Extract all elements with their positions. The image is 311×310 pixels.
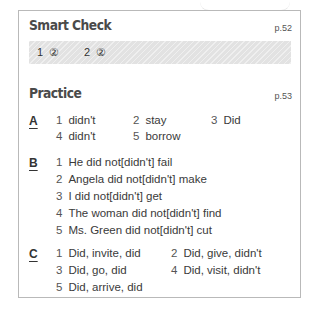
section-b-item-1: 1He did not[didn't] fail [56,156,172,168]
smart-check-page-ref: p.52 [274,23,292,33]
section-a-label: A [29,114,38,128]
smart-check-answers: 1② 2② [29,41,291,64]
smart-check-title: Smart Check [29,17,111,33]
section-a-item-3: 3Did [211,114,241,126]
section-a-item-4: 4didn't [56,130,96,142]
section-b-item-2: 2Angela did not[didn't] make [56,173,207,185]
smart-check-answer-1: 1② [37,46,59,59]
section-c-item-1: 1Did, invite, did [56,247,141,259]
section-c-item-2: 2Did, give, didn't [171,247,262,259]
section-b-item-4: 4The woman did not[didn't] find [56,207,221,219]
section-c-item-3: 3Did, go, did [56,264,127,276]
practice-page-ref: p.53 [274,91,292,101]
section-b-item-5: 5Ms. Green did not[didn't] cut [56,224,212,236]
section-c-label: C [29,247,38,261]
section-c-item-4: 4Did, visit, didn't [171,264,260,276]
section-c-item-5: 5Did, arrive, did [56,281,143,293]
smart-check-answer-2: 2② [84,46,106,59]
section-b-item-3: 3I did not[didn't] get [56,190,162,202]
answer-key-box: Smart Check p.52 1② 2② Practice p.53 A 1… [18,10,301,298]
section-b-label: B [29,156,38,170]
section-a-item-1: 1didn't [56,114,96,126]
practice-title: Practice [29,85,81,101]
section-a-item-2: 2stay [133,114,167,126]
section-a-item-5: 5borrow [133,130,181,142]
